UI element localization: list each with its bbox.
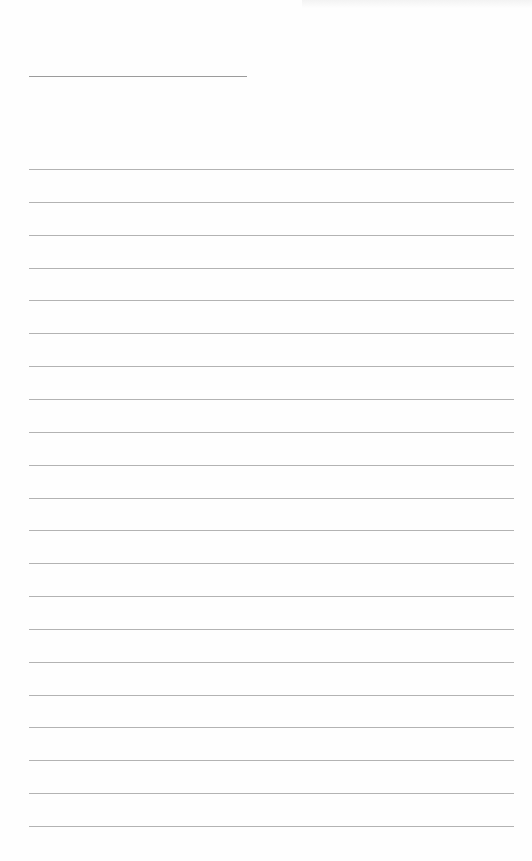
writing-line [29,465,514,466]
lined-page [0,0,532,861]
writing-line [29,333,514,334]
scan-artifact [302,0,532,8]
writing-line [29,235,514,236]
writing-line [29,530,514,531]
writing-line [29,695,514,696]
writing-line [29,366,514,367]
writing-line [29,793,514,794]
writing-line [29,760,514,761]
writing-line [29,498,514,499]
writing-line [29,432,514,433]
writing-line [29,300,514,301]
writing-line [29,727,514,728]
writing-line [29,629,514,630]
writing-line [29,202,514,203]
writing-line [29,169,514,170]
writing-line [29,399,514,400]
writing-line [29,563,514,564]
writing-line [29,826,514,827]
writing-line [29,268,514,269]
writing-line [29,662,514,663]
title-underline [29,76,247,77]
writing-line [29,596,514,597]
